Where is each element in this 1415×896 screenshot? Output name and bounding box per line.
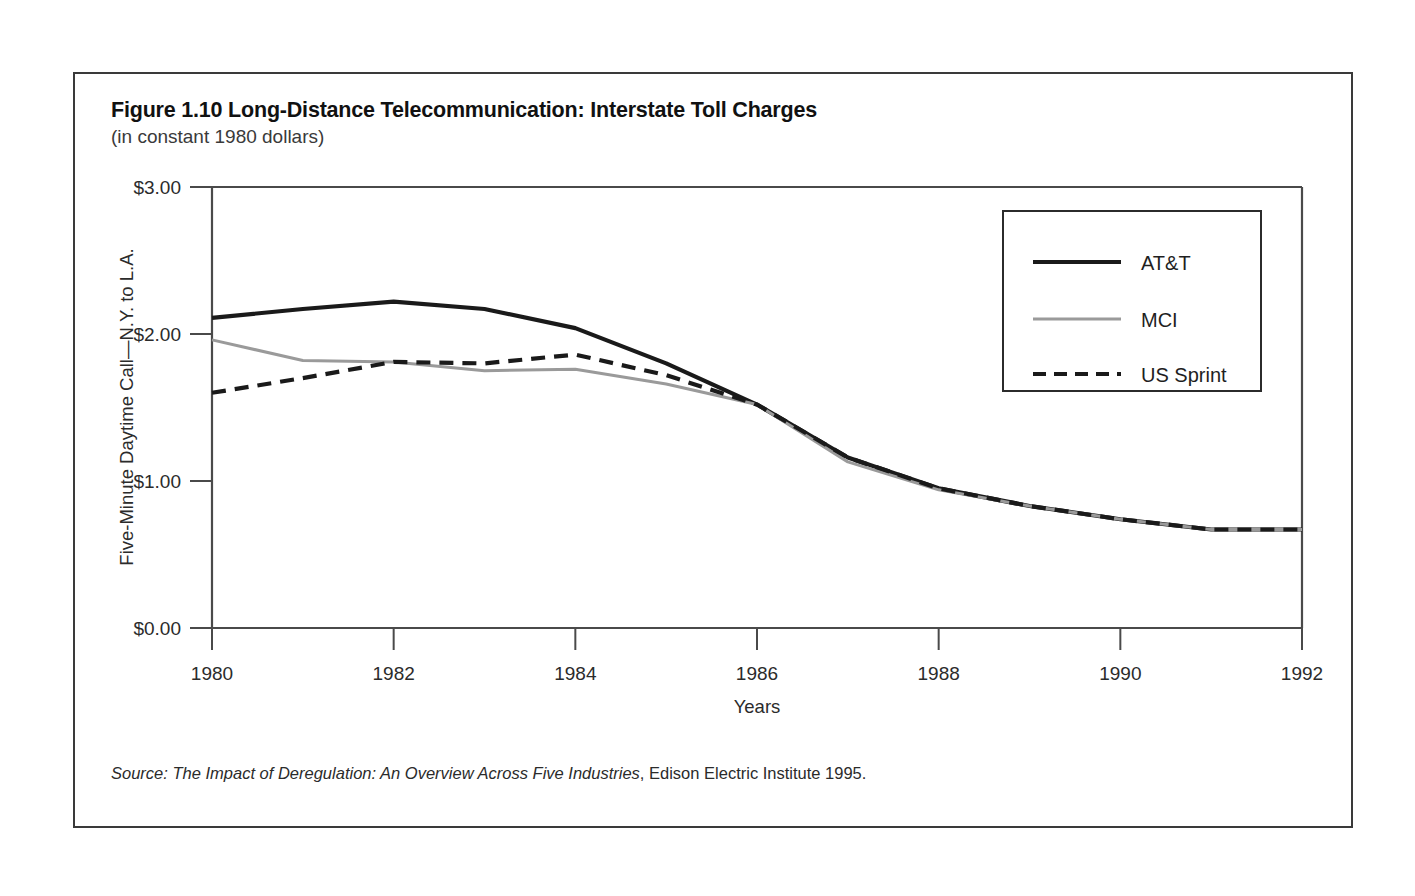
x-tick-label: 1984	[554, 663, 597, 684]
y-tick-label: $0.00	[133, 618, 181, 639]
x-axis-tick-labels: 1980198219841986198819901992	[191, 663, 1323, 684]
y-axis-ticks	[190, 187, 212, 628]
figure-frame: Figure 1.10 Long-Distance Telecommunicat…	[73, 72, 1353, 828]
legend-label: AT&T	[1141, 252, 1191, 274]
x-axis-ticks	[212, 628, 1302, 650]
y-axis-title: Five-Minute Daytime Call—N.Y. to L.A.	[116, 248, 137, 565]
y-tick-label: $1.00	[133, 471, 181, 492]
source-work-title: The Impact of Deregulation: An Overview …	[168, 764, 640, 782]
line-chart-svg: $0.00$1.00$2.00$3.00 1980198219841986198…	[75, 74, 1355, 830]
legend-label: MCI	[1141, 309, 1178, 331]
x-tick-label: 1980	[191, 663, 233, 684]
source-label: Source:	[111, 764, 168, 782]
y-tick-label: $3.00	[133, 177, 181, 198]
x-tick-label: 1988	[918, 663, 960, 684]
source-note: Source: The Impact of Deregulation: An O…	[111, 764, 866, 783]
x-tick-label: 1986	[736, 663, 778, 684]
x-axis-title: Years	[734, 696, 781, 717]
y-tick-label: $2.00	[133, 324, 181, 345]
chart-legend: AT&TMCIUS Sprint	[1003, 211, 1261, 391]
x-tick-label: 1990	[1099, 663, 1141, 684]
x-tick-label: 1982	[373, 663, 415, 684]
y-axis-tick-labels: $0.00$1.00$2.00$3.00	[133, 177, 181, 639]
x-tick-label: 1992	[1281, 663, 1323, 684]
legend-label: US Sprint	[1141, 364, 1227, 386]
source-publisher: , Edison Electric Institute 1995.	[640, 764, 867, 782]
chart-plot-area: $0.00$1.00$2.00$3.00 1980198219841986198…	[75, 74, 1355, 830]
